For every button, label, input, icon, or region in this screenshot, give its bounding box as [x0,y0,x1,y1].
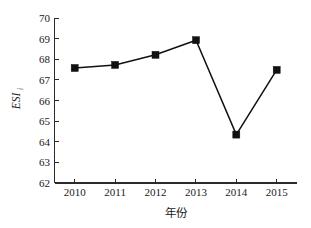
y-tick-label: 70 [39,12,51,24]
y-tick-label: 63 [39,156,51,168]
data-point-2011 [112,61,119,68]
x-tick-label: 2013 [185,186,208,198]
data-point-2012 [152,51,159,58]
y-axis-title-subscript: i [16,88,25,90]
x-tick-label: 2014 [225,186,248,198]
y-tick-label: 66 [39,95,51,107]
y-tick-label: 62 [39,177,50,189]
y-tick-label: 68 [39,53,51,65]
data-point-2010 [71,65,78,72]
y-tick-label: 67 [39,74,51,86]
chart-container: 70 69 68 67 66 65 64 63 62 2010 2011 201… [0,0,311,228]
line-chart: 70 69 68 67 66 65 64 63 62 2010 2011 201… [0,0,311,228]
data-point-2013 [193,37,200,44]
x-tick-label: 2010 [64,186,87,198]
data-point-2015 [273,66,280,73]
y-tick-label: 64 [39,136,51,148]
y-axis-title-text: ESI [10,92,22,111]
y-axis-tick-labels: 70 69 68 67 66 65 64 63 62 [39,12,51,189]
y-tick-label: 65 [39,115,51,127]
x-axis-title: 年份 [165,206,188,219]
x-tick-label: 2012 [145,186,167,198]
x-tick-label: 2011 [104,186,126,198]
y-tick-label: 69 [39,33,51,45]
data-point-2014 [233,131,240,138]
x-tick-label: 2015 [266,186,289,198]
